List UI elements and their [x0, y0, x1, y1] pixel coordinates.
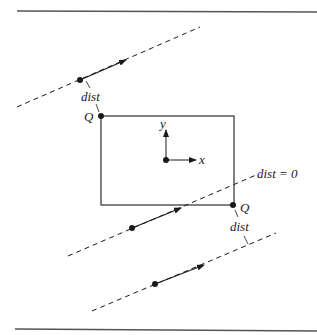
plane-zero-direction-arrow [132, 208, 181, 228]
plane-bottom-direction-arrow [155, 265, 204, 284]
diagram-canvas: x y Q Q dist dist = 0 dist [0, 0, 317, 335]
axis-x-label: x [198, 152, 205, 167]
plane-top-direction-arrow [80, 60, 126, 80]
dist-bottom-leader-upper [235, 210, 238, 217]
dist-zero-label: dist = 0 [257, 166, 298, 181]
top-rule [17, 11, 317, 12]
q-top-left-label: Q [84, 109, 94, 124]
axis-y-label: y [158, 116, 166, 131]
dist-top-label: dist [81, 89, 100, 104]
plane-line-top [17, 27, 200, 107]
q-bottom-right-label: Q [240, 200, 250, 215]
plane-line-bottom [92, 233, 276, 311]
q-top-left-dot [98, 113, 104, 119]
dist-top-leader-lower [96, 104, 99, 112]
dist-bottom-leader-lower [244, 236, 248, 244]
dist-bottom-label: dist [230, 219, 249, 234]
dist-top-leader [86, 81, 90, 88]
q-bottom-right-dot [230, 202, 236, 208]
bottom-rule [15, 329, 317, 331]
